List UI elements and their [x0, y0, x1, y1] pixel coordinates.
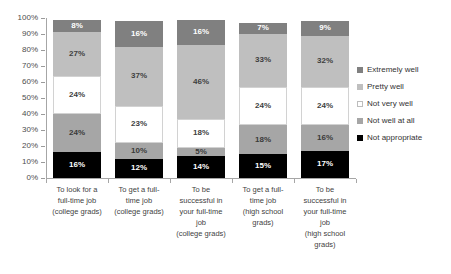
bar-segment[interactable]: 8%: [53, 20, 101, 33]
y-axis-tick-label: 60%: [22, 78, 38, 86]
bar-segment-value-label: 16%: [317, 134, 333, 142]
x-axis-tick-mark: [356, 179, 357, 183]
x-axis-category-label: To look for afull-time job(college grads…: [46, 184, 108, 217]
bar-segment[interactable]: 24%: [53, 114, 101, 152]
y-axis-tick-label: 90%: [22, 30, 38, 38]
x-axis-category-label-line: To be: [295, 184, 355, 195]
x-axis-category-label-line: grads): [233, 217, 293, 228]
chart-legend: Extremely wellPretty wellNot very wellNo…: [357, 62, 451, 147]
bar-group[interactable]: 8%27%24%24%16%: [53, 18, 101, 178]
x-axis-category-label-line: your full-time: [295, 206, 355, 217]
bar-segment-value-label: 17%: [317, 160, 333, 168]
bar-segment[interactable]: 14%: [177, 156, 225, 178]
bar-segment-value-label: 46%: [193, 78, 209, 86]
bar-segment[interactable]: 12%: [115, 159, 163, 178]
x-axis-category-label-line: (high school: [233, 206, 293, 217]
bar-group[interactable]: 16%37%23%10%12%: [115, 18, 163, 178]
y-axis: 0%10%20%30%40%50%60%70%80%90%100%: [0, 13, 46, 183]
bar-segment-value-label: 16%: [69, 161, 85, 169]
bar-segment[interactable]: 5%: [177, 148, 225, 156]
y-axis-tick-label: 30%: [22, 126, 38, 134]
bar-segment-value-label: 16%: [193, 28, 209, 36]
bar-segment-value-label: 27%: [69, 50, 85, 58]
legend-swatch-icon: [357, 135, 363, 141]
y-axis-tick-mark: [41, 146, 45, 147]
bar-segment[interactable]: 24%: [301, 87, 349, 125]
x-axis-tick-mark: [232, 179, 233, 183]
y-axis-tick-label: 40%: [22, 110, 38, 118]
bar-segment-value-label: 24%: [317, 102, 333, 110]
legend-swatch-icon: [357, 84, 363, 90]
legend-item-label: Pretty well: [367, 82, 404, 91]
y-axis-tick-mark: [41, 34, 45, 35]
bar-segment[interactable]: 46%: [177, 45, 225, 119]
legend-item[interactable]: Not well at all: [357, 113, 451, 128]
stacked-bar-chart: 0%10%20%30%40%50%60%70%80%90%100% 8%27%2…: [0, 0, 451, 274]
bar-segment[interactable]: 23%: [115, 106, 163, 143]
y-axis-line: [46, 18, 47, 178]
legend-swatch-icon: [357, 101, 363, 107]
x-axis-category-label: To get a full-time job(college grads): [108, 184, 170, 217]
y-axis-tick-mark: [41, 82, 45, 83]
x-axis-category-label-line: (college grads): [109, 206, 169, 217]
bar-segment[interactable]: 7%: [239, 23, 287, 34]
bar-group[interactable]: 7%33%24%18%15%: [239, 18, 287, 178]
bar-segment[interactable]: 16%: [53, 152, 101, 178]
bar-segment-value-label: 23%: [131, 120, 147, 128]
bar-group[interactable]: 16%46%18%5%14%: [177, 18, 225, 178]
x-axis-category-label-line: (college grads): [171, 228, 231, 239]
legend-item-label: Not well at all: [367, 116, 415, 125]
bar-segment[interactable]: 10%: [115, 143, 163, 159]
y-axis-tick-label: 10%: [22, 158, 38, 166]
bar-segment-value-label: 9%: [319, 24, 331, 32]
y-axis-tick-mark: [41, 178, 45, 179]
y-axis-tick-mark: [41, 18, 45, 19]
bar-group[interactable]: 9%32%24%16%17%: [301, 18, 349, 178]
x-axis-line: [46, 178, 356, 179]
bar-segment-value-label: 37%: [131, 72, 147, 80]
bar-segment[interactable]: 16%: [115, 21, 163, 47]
y-axis-tick-label: 80%: [22, 46, 38, 54]
bar-segment-value-label: 12%: [131, 164, 147, 172]
bar-segment-value-label: 33%: [255, 56, 271, 64]
x-axis-category-label-line: time job: [109, 195, 169, 206]
legend-item[interactable]: Not very well: [357, 96, 451, 111]
x-axis-category-label-line: To be: [171, 184, 231, 195]
bar-segment[interactable]: 27%: [53, 32, 101, 75]
legend-item[interactable]: Pretty well: [357, 79, 451, 94]
bar-segment[interactable]: 32%: [301, 36, 349, 87]
bar-segment[interactable]: 16%: [177, 20, 225, 46]
bar-segment[interactable]: 33%: [239, 34, 287, 87]
legend-item[interactable]: Not appropriate: [357, 130, 451, 145]
x-axis-category-labels: To look for afull-time job(college grads…: [46, 184, 356, 274]
x-axis-category-label-line: (college grads): [47, 206, 107, 217]
bar-segment-value-label: 18%: [193, 129, 209, 137]
legend-item-label: Extremely well: [367, 65, 419, 74]
bar-segment[interactable]: 18%: [239, 125, 287, 154]
x-axis-category-label-line: your full-time: [171, 206, 231, 217]
x-axis-category-label: To besuccessful inyour full-timejob(high…: [294, 184, 356, 250]
x-axis-tick-mark: [170, 179, 171, 183]
bar-segment[interactable]: 16%: [301, 125, 349, 151]
x-axis-tick-mark: [108, 179, 109, 183]
legend-item[interactable]: Extremely well: [357, 62, 451, 77]
bar-segment[interactable]: 15%: [239, 154, 287, 178]
y-axis-tick-label: 100%: [18, 14, 38, 22]
legend-swatch-icon: [357, 67, 363, 73]
bar-segment[interactable]: 18%: [177, 119, 225, 148]
bar-segment[interactable]: 24%: [239, 87, 287, 125]
x-axis-tick-mark: [46, 179, 47, 183]
bar-segment[interactable]: 37%: [115, 47, 163, 106]
bar-segment[interactable]: 24%: [53, 76, 101, 114]
x-axis-category-label-line: time job: [233, 195, 293, 206]
bar-segment[interactable]: 9%: [301, 21, 349, 35]
bar-segment-value-label: 16%: [131, 30, 147, 38]
y-axis-tick-label: 50%: [22, 94, 38, 102]
bar-segment[interactable]: 17%: [301, 151, 349, 178]
bar-segment-value-label: 18%: [255, 136, 271, 144]
y-axis-tick-mark: [41, 98, 45, 99]
y-axis-tick-mark: [41, 66, 45, 67]
x-axis-category-label-line: To get a full-: [233, 184, 293, 195]
y-axis-tick-mark: [41, 130, 45, 131]
bar-segment-value-label: 14%: [193, 163, 209, 171]
